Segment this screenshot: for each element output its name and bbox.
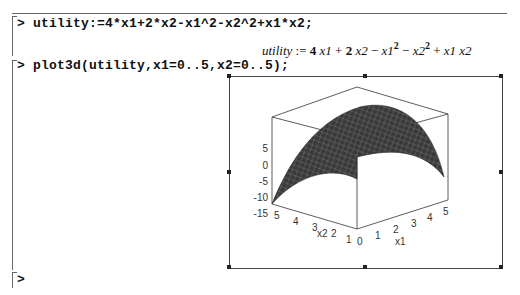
worksheet-top-rule <box>12 13 507 14</box>
plot3d-canvas: 5 0 -5 -10 -15 5 4 3 2 1 x2 0 1 2 3 4 5 … <box>230 77 502 268</box>
input-line-3[interactable]: > <box>17 272 25 287</box>
svg-text:3: 3 <box>411 218 417 229</box>
x2-axis-ticks: 5 4 3 2 1 x2 <box>274 210 352 245</box>
svg-text:5: 5 <box>443 206 449 217</box>
svg-text:5: 5 <box>262 143 268 154</box>
output-line-1: utility := 4 x1 + 2 x2 − x12 − x22 + x1 … <box>262 40 472 59</box>
svg-text:-10: -10 <box>254 192 269 203</box>
execution-group-bracket-3[interactable] <box>12 272 13 288</box>
svg-text:0: 0 <box>262 160 268 171</box>
x1-axis-ticks: 0 1 2 3 4 5 x1 <box>357 206 449 247</box>
surface-mesh <box>272 105 444 204</box>
execution-group-bracket-2[interactable] <box>12 60 13 270</box>
plot3d-region[interactable]: 5 0 -5 -10 -15 5 4 3 2 1 x2 0 1 2 3 4 5 … <box>229 76 503 269</box>
svg-text:x2: x2 <box>317 228 328 239</box>
command-text[interactable]: utility:=4*x1+2*x2-x1^2-x2^2+x1*x2; <box>33 16 313 31</box>
svg-text:5: 5 <box>274 210 280 221</box>
svg-text:2: 2 <box>393 224 399 235</box>
svg-text:x1: x1 <box>395 236 406 247</box>
command-text[interactable]: plot3d(utility,x1=0..5,x2=0..5); <box>33 58 289 73</box>
prompt-marker: > <box>17 58 25 73</box>
prompt-marker: > <box>17 272 25 287</box>
svg-text:2: 2 <box>331 228 337 239</box>
input-line-2[interactable]: > plot3d(utility,x1=0..5,x2=0..5); <box>17 58 289 73</box>
svg-text:0: 0 <box>357 236 363 247</box>
svg-text:1: 1 <box>375 230 381 241</box>
input-line-1[interactable]: > utility:=4*x1+2*x2-x1^2-x2^2+x1*x2; <box>17 16 313 31</box>
svg-text:-5: -5 <box>259 176 268 187</box>
prompt-marker: > <box>17 16 25 31</box>
execution-group-bracket-1[interactable] <box>12 16 13 56</box>
svg-text:4: 4 <box>293 216 299 227</box>
z-axis-ticks: 5 0 -5 -10 -15 <box>254 143 269 219</box>
svg-text:-15: -15 <box>254 208 269 219</box>
svg-text:4: 4 <box>427 212 433 223</box>
svg-text:1: 1 <box>346 234 352 245</box>
